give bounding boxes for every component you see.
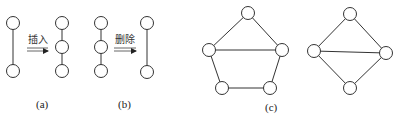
graph-node [308, 45, 321, 58]
diagram-canvas: 插入 删除 (a) (b) (c) [0, 0, 396, 123]
graph-node [141, 66, 154, 79]
graph-edge [350, 53, 386, 88]
graph-edge [314, 14, 350, 51]
graph-node [7, 17, 20, 30]
nodes [7, 7, 393, 95]
edges [13, 13, 386, 88]
graph-node [95, 17, 108, 30]
graph-edge [248, 13, 282, 50]
graph-edge [314, 51, 386, 53]
graph-node [276, 44, 289, 57]
graph-node [242, 7, 255, 20]
graph-node [344, 8, 357, 21]
graph-node [95, 41, 108, 54]
graph-edge [314, 51, 350, 88]
graph-node [264, 82, 277, 95]
graph-node [56, 41, 69, 54]
delete-label: 删除 [115, 33, 135, 45]
insert-label: 插入 [28, 33, 48, 45]
graph-node [56, 17, 69, 30]
graph-node [344, 82, 357, 95]
graph-edge [350, 14, 386, 53]
graph-node [56, 65, 69, 78]
panel-label-c: (c) [265, 101, 278, 114]
graph-node [141, 17, 154, 30]
insert-arrow [27, 48, 48, 51]
graph-node [216, 82, 229, 95]
delete-arrow [114, 48, 136, 51]
graph-edge [209, 13, 248, 50]
graph-node [203, 44, 216, 57]
graph-node [380, 47, 393, 60]
graph-node [95, 65, 108, 78]
graph-node [7, 65, 20, 78]
panel-label-a: (a) [36, 98, 49, 111]
panel-label-b: (b) [118, 98, 131, 111]
